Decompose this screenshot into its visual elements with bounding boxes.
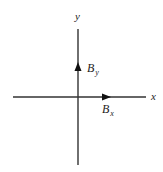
by-vector-label: By	[87, 61, 99, 77]
arrowhead-up-icon	[75, 62, 82, 71]
by-vector-subscript: y	[94, 68, 99, 77]
by-vector-name: B	[87, 61, 95, 75]
bx-vector-name: B	[102, 102, 110, 116]
y-axis-label: y	[74, 10, 80, 22]
vector-components-diagram: y x By Bx	[0, 0, 163, 172]
arrowhead-right-icon	[102, 94, 111, 101]
x-axis-label: x	[150, 90, 156, 102]
bx-vector-label: Bx	[102, 102, 114, 118]
bx-vector-subscript: x	[109, 109, 114, 118]
diagram-svg: y x By Bx	[0, 0, 163, 172]
